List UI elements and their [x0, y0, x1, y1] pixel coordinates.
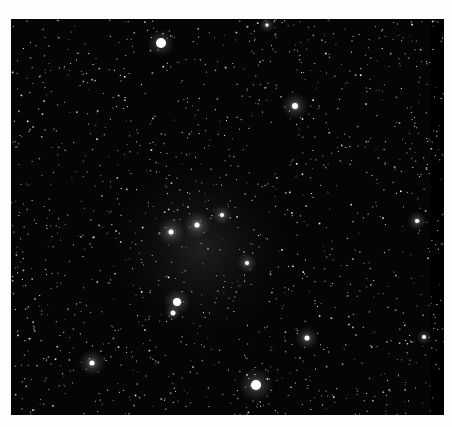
star-field-canvas [11, 19, 444, 415]
star-field-photo [11, 19, 444, 415]
